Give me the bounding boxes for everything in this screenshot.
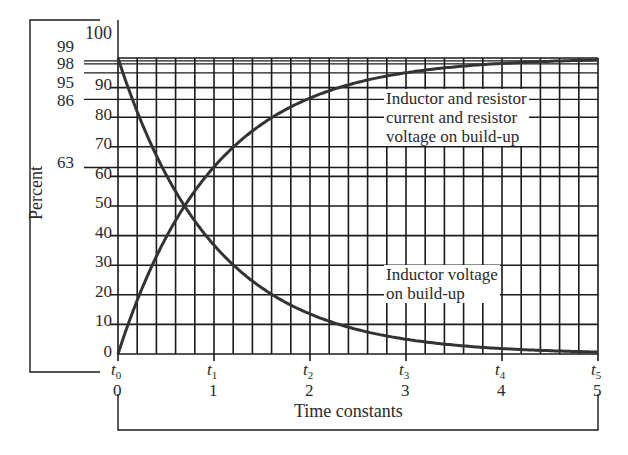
y-label-60: 60 bbox=[80, 165, 112, 182]
y-label-80: 80 bbox=[80, 106, 112, 123]
y-label-20: 20 bbox=[80, 283, 112, 300]
y-label-90: 90 bbox=[80, 76, 112, 93]
annotation-rise-line-2: current and resistor bbox=[386, 108, 527, 127]
x-label-5: 5 bbox=[593, 382, 602, 399]
annotation-rise-curve: Inductor and resistor current and resist… bbox=[384, 89, 529, 146]
y-label-70: 70 bbox=[80, 135, 112, 152]
y-extra-98: 98 bbox=[57, 55, 74, 72]
y-extra-99: 99 bbox=[57, 38, 74, 55]
x-label-3: 3 bbox=[401, 382, 410, 399]
x-label-4: 4 bbox=[497, 382, 506, 399]
y-label-10: 10 bbox=[80, 312, 112, 329]
y-label-50: 50 bbox=[80, 194, 112, 211]
annotation-decay-line-2: on build-up bbox=[386, 284, 498, 303]
y-label-100: 100 bbox=[78, 25, 112, 42]
x-axis-title: Time constants bbox=[294, 403, 403, 420]
y-extra-95: 95 bbox=[57, 74, 74, 91]
annotation-rise-line-3: voltage on build-up bbox=[386, 127, 527, 146]
annotation-decay-line-1: Inductor voltage bbox=[386, 265, 498, 284]
x-label-0: 0 bbox=[113, 382, 122, 399]
y-extra-63: 63 bbox=[57, 154, 74, 171]
y-label-0: 0 bbox=[80, 343, 112, 360]
y-label-30: 30 bbox=[80, 253, 112, 270]
annotation-decay-curve: Inductor voltage on build-up bbox=[384, 265, 500, 303]
x-label-1: 1 bbox=[209, 382, 218, 399]
annotation-rise-line-1: Inductor and resistor bbox=[386, 89, 527, 108]
y-extra-86: 86 bbox=[57, 92, 74, 109]
x-label-2: 2 bbox=[305, 382, 314, 399]
y-axis-title: Percent bbox=[28, 166, 45, 220]
y-label-40: 40 bbox=[80, 224, 112, 241]
